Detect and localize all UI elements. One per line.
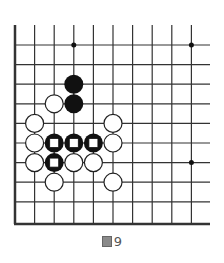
white-stone (26, 154, 44, 172)
white-stone (65, 154, 83, 172)
square-marker-icon (89, 139, 98, 148)
black-stone (64, 75, 83, 94)
white-stone (45, 173, 63, 191)
square-marker-icon (50, 139, 59, 148)
star-point (189, 160, 194, 165)
white-stone (104, 134, 122, 152)
star-point (189, 43, 194, 48)
white-stone (84, 154, 102, 172)
figure-caption: 9 (0, 234, 224, 249)
black-stone (64, 94, 83, 113)
star-point (71, 43, 76, 48)
white-stone (104, 173, 122, 191)
go-board (0, 0, 224, 232)
figure-number: 9 (114, 234, 122, 249)
white-stone (45, 95, 63, 113)
square-marker-icon (50, 158, 59, 167)
white-stone (104, 114, 122, 132)
square-marker-icon (69, 139, 78, 148)
figure-icon (102, 236, 112, 247)
white-stone (26, 114, 44, 132)
white-stone (26, 134, 44, 152)
